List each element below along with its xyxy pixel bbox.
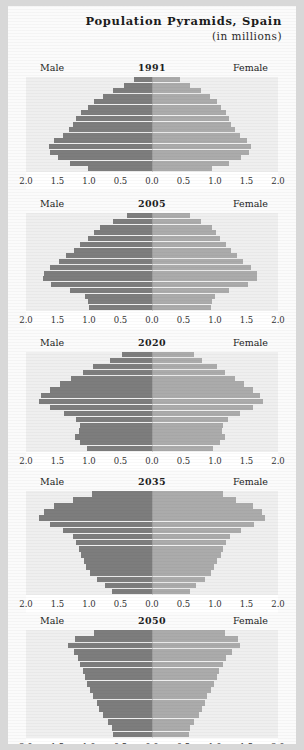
male-bar [66,253,152,258]
male-bar [80,440,152,445]
female-bar [152,299,212,304]
female-bar [152,528,241,534]
female-bar [152,99,217,104]
male-bar [54,138,152,143]
female-bar [152,259,243,264]
pyramid-panel-1991: Male1991Female2.01.51.00.50.00.51.01.52.… [8,60,296,190]
axis-tick-label: 0.5 [177,456,191,466]
female-bar [152,271,257,276]
male-bar [68,643,152,649]
axis-tick-label: 1.0 [208,599,222,609]
axis-tick-label: 2.0 [19,742,33,744]
male-bar [80,242,152,247]
male-bar [60,381,152,386]
male-bar [97,700,152,706]
plot-area-2035 [26,491,278,595]
axis-tick-label: 2.0 [271,176,285,186]
female-bar [152,540,226,546]
male-bar [51,282,152,287]
female-bar [152,643,240,649]
female-bar [152,305,211,310]
female-axis-label: Female [233,337,268,348]
female-bar [152,225,212,230]
female-bar [152,577,205,583]
female-bar [152,655,226,661]
female-bar [152,364,217,369]
male-bar [110,358,152,363]
axis-tick-label: 0.5 [114,599,128,609]
male-bar [59,259,152,264]
female-bar [152,393,260,398]
male-bar [74,248,152,253]
axis-tick-label: 1.0 [82,176,96,186]
female-bar [152,662,223,668]
male-bar [88,299,152,304]
male-bar [112,589,152,595]
male-bar [83,668,152,674]
male-bar [83,370,152,375]
female-bar [152,503,253,509]
male-bar [94,99,152,104]
male-bar [87,446,152,451]
figure-canvas: Population Pyramids, Spain (in millions)… [8,6,296,744]
axis-tick-label: 1.0 [208,176,222,186]
male-bar [103,712,152,718]
female-bar [152,77,180,82]
female-bar [152,110,226,115]
female-bar [152,213,190,218]
axis-tick-label: 0.0 [145,742,159,744]
female-bar [152,491,223,497]
male-bar [84,558,152,564]
axis-tick-label: 2.0 [271,742,285,744]
male-bar [88,166,152,171]
axis-tick-label: 1.5 [51,742,65,744]
axis-tick-label: 0.0 [145,176,159,186]
male-bar [73,497,152,503]
female-bar [152,282,248,287]
female-bar [152,88,201,93]
male-bar [88,236,152,241]
female-bar [152,294,215,299]
axis-tick-label: 0.5 [114,742,128,744]
male-bar [94,230,152,235]
axis-tick-label: 1.5 [240,176,254,186]
female-bar [152,370,225,375]
axis-tick-label: 0.0 [145,456,159,466]
male-bar [76,540,152,546]
female-bar [152,497,236,503]
female-bar [152,725,190,731]
female-bar [152,509,262,515]
plot-area-1991 [26,77,278,172]
female-bar [152,265,251,270]
male-bar [50,405,152,410]
panel-header-2035: Male2035Female [8,474,296,491]
center-axis-rule [152,213,153,311]
female-bar [152,83,190,88]
male-bar [73,534,152,540]
female-bar [152,534,230,540]
female-bar [152,546,223,552]
female-bar [152,381,244,386]
axis-tick-label: 0.0 [145,599,159,609]
x-axis-1991: 2.01.51.00.50.00.51.01.52.0 [26,172,278,190]
female-bar [152,155,241,160]
female-bar [152,411,240,416]
male-bar [122,352,152,357]
pyramid-panel-2020: Male2020Female2.01.51.00.50.00.51.01.52.… [8,335,296,470]
axis-tick-label: 1.5 [51,599,65,609]
male-bar [113,88,152,93]
female-bar [152,230,216,235]
female-bar [152,116,229,121]
axis-tick-label: 1.0 [82,599,96,609]
female-bar [152,236,220,241]
male-bar [75,636,152,642]
female-bar [152,564,214,570]
male-bar [100,225,152,230]
female-bar [152,552,221,558]
axis-tick-label: 0.5 [177,176,191,186]
male-bar [41,393,152,398]
female-bar [152,358,202,363]
female-bar [152,94,210,99]
male-bar [85,294,152,299]
axis-tick-label: 0.5 [114,456,128,466]
